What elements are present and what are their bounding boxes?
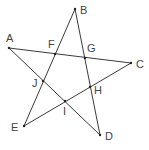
label-c: C [136, 58, 144, 70]
label-i: I [63, 105, 66, 117]
edge-ac [9, 48, 131, 63]
point-h-dot [89, 86, 91, 88]
vertex-dots [8, 8, 132, 136]
point-f-dot [54, 53, 56, 55]
edge-ce [24, 63, 131, 126]
edge-bd [75, 9, 100, 135]
label-b: B [80, 4, 87, 16]
point-a-dot [8, 47, 10, 49]
label-e: E [11, 121, 18, 133]
point-d-dot [99, 134, 101, 136]
pentagram-diagram: ABCDEFGHIJ [0, 0, 149, 150]
point-j-dot [42, 80, 44, 82]
edge-eb [24, 9, 75, 126]
label-f: F [48, 38, 55, 50]
point-c-dot [130, 62, 132, 64]
point-b-dot [74, 8, 76, 10]
point-i-dot [64, 100, 66, 102]
edge-da [9, 48, 100, 135]
label-d: D [105, 130, 113, 142]
label-h: H [94, 84, 102, 96]
label-a: A [6, 32, 14, 44]
label-g: G [87, 42, 96, 54]
point-g-dot [84, 57, 86, 59]
point-e-dot [23, 125, 25, 127]
label-j: J [32, 77, 38, 89]
point-labels: ABCDEFGHIJ [6, 4, 144, 142]
pentagram-edges [9, 9, 131, 135]
